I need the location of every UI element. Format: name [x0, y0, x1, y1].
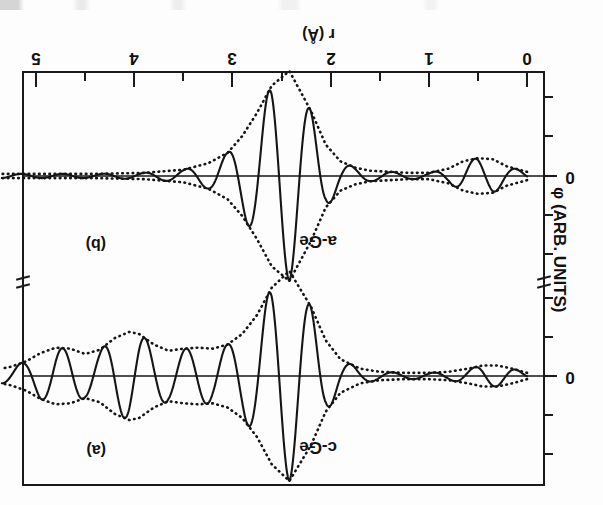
- rotated-figure-content: r (Å) φ (ARB. UNITS) 0 1 2 3 4 5: [0, 0, 603, 505]
- c-ge-envelope-positive: [2, 379, 527, 481]
- c-ge-oscillation-curve: [2, 292, 527, 481]
- figure-scan-canvas: r (Å) φ (ARB. UNITS) 0 1 2 3 4 5: [0, 0, 603, 505]
- a-ge-envelope-positive: [2, 178, 527, 281]
- a-ge-oscillation-curve: [2, 90, 527, 281]
- curve-layer: [0, 0, 603, 505]
